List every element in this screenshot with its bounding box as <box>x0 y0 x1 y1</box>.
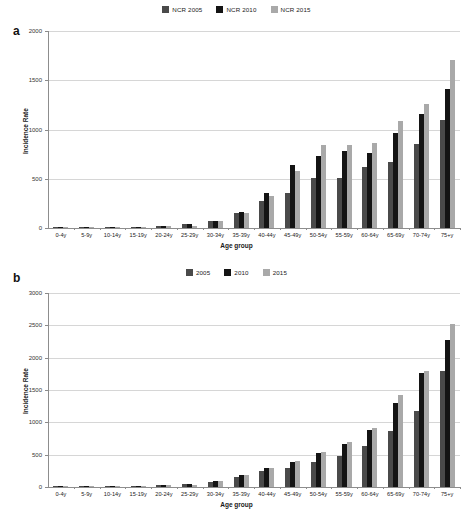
x-tick-mark <box>74 487 75 489</box>
x-tick-mark <box>177 487 178 489</box>
x-tick-mark <box>331 228 332 230</box>
bar-group <box>74 293 100 487</box>
x-tick-mark <box>228 228 229 230</box>
x-tick-mark <box>228 487 229 489</box>
x-axis-tick-label: 20-24y <box>155 232 172 238</box>
x-axis-tick-label: 50-54y <box>310 491 327 497</box>
x-axis-tick-label: 40-44y <box>258 232 275 238</box>
y-axis-tick-label: 500 <box>14 176 42 182</box>
bar <box>166 226 171 228</box>
bar-group <box>151 293 177 487</box>
bar <box>115 227 120 228</box>
bar <box>398 121 403 228</box>
bar-group <box>203 293 229 487</box>
y-axis-tick-label: 3000 <box>14 290 42 296</box>
x-tick-mark <box>100 228 101 230</box>
y-axis-tick-label: 0 <box>14 225 42 231</box>
x-tick-mark <box>280 228 281 230</box>
y-axis-tick-label: 1000 <box>14 419 42 425</box>
x-axis-tick-label: 60-64y <box>361 491 378 497</box>
bar-group <box>203 31 229 228</box>
y-axis-tick-label: 2000 <box>14 28 42 34</box>
chart-panel-b: b 200520102015 Incidence Rate05001000150… <box>0 266 473 526</box>
x-axis-tick-label: 15-19y <box>130 232 147 238</box>
bar-group <box>357 31 383 228</box>
bar-group <box>125 293 151 487</box>
x-axis-tick-label: 10-14y <box>104 232 121 238</box>
x-tick-mark <box>306 228 307 230</box>
y-axis-tick-label: 1000 <box>14 127 42 133</box>
y-axis-tick-label: 1500 <box>14 77 42 83</box>
x-tick-mark <box>357 487 358 489</box>
x-tick-mark <box>306 487 307 489</box>
x-tick-mark <box>125 487 126 489</box>
y-axis-tick-label: 2500 <box>14 322 42 328</box>
bar-group <box>306 31 332 228</box>
x-axis-tick-label: 65-69y <box>387 491 404 497</box>
bar <box>141 227 146 228</box>
bar <box>424 371 429 487</box>
x-axis-tick-label: 20-24y <box>155 491 172 497</box>
bar <box>450 60 455 228</box>
x-axis-tick-label: 45-49y <box>284 232 301 238</box>
bar <box>347 442 352 487</box>
bar-group <box>125 31 151 228</box>
bar <box>372 428 377 487</box>
bar <box>192 485 197 487</box>
bar-group <box>434 293 460 487</box>
x-tick-mark <box>331 487 332 489</box>
bar-group <box>100 293 126 487</box>
bar <box>321 145 326 228</box>
x-axis-tick-label: 0-4y <box>55 491 66 497</box>
x-tick-mark <box>409 487 410 489</box>
x-tick-mark <box>125 228 126 230</box>
bar-group <box>280 31 306 228</box>
x-tick-mark <box>254 487 255 489</box>
bar-group <box>228 293 254 487</box>
x-tick-mark <box>151 228 152 230</box>
bar-group <box>331 31 357 228</box>
bar <box>115 486 120 487</box>
x-axis-tick-label: 75+y <box>441 491 453 497</box>
bar <box>218 221 223 228</box>
bar-series-container <box>48 293 460 487</box>
bar-group <box>228 31 254 228</box>
x-axis-tick-label: 25-29y <box>181 491 198 497</box>
bar-group <box>409 31 435 228</box>
x-tick-mark <box>409 228 410 230</box>
bar-group <box>383 293 409 487</box>
x-axis-tick-label: 35-39y <box>233 491 250 497</box>
x-axis-tick-label: 10-14y <box>104 491 121 497</box>
bar <box>89 227 94 228</box>
plot-area-a: Incidence Rate05001000150020000-4y5-9y10… <box>0 0 473 266</box>
x-axis-tick-label: 25-29y <box>181 232 198 238</box>
bar-group <box>357 293 383 487</box>
bar <box>218 481 223 487</box>
bar-group <box>409 293 435 487</box>
x-tick-mark <box>460 228 461 230</box>
y-axis-tick-label: 2000 <box>14 355 42 361</box>
bar-group <box>434 31 460 228</box>
bar <box>269 196 274 228</box>
x-tick-mark <box>357 228 358 230</box>
x-tick-mark <box>434 228 435 230</box>
x-axis-tick-label: 70-74y <box>413 491 430 497</box>
bar-group <box>331 293 357 487</box>
x-tick-mark <box>74 228 75 230</box>
x-tick-mark <box>434 487 435 489</box>
x-tick-mark <box>383 487 384 489</box>
bar <box>321 452 326 487</box>
y-axis-tick-label: 1500 <box>14 387 42 393</box>
x-axis-tick-label: 40-44y <box>258 491 275 497</box>
x-tick-mark <box>460 487 461 489</box>
x-axis-tick-label: 60-64y <box>361 232 378 238</box>
x-axis-tick-label: 35-39y <box>233 232 250 238</box>
x-tick-mark <box>203 228 204 230</box>
bar <box>63 486 68 487</box>
x-tick-mark <box>177 228 178 230</box>
bar <box>63 227 68 228</box>
chart-panel-a: a NCR 2005NCR 2010NCR 2015 Incidence Rat… <box>0 0 473 266</box>
bar <box>141 486 146 487</box>
bar <box>269 468 274 487</box>
x-tick-mark <box>280 487 281 489</box>
